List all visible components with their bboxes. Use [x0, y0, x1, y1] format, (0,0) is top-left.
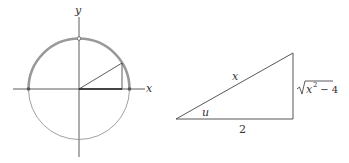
right-endpoint — [128, 87, 132, 91]
radicand-rest: − 4 — [317, 84, 338, 95]
radius-line — [79, 63, 122, 89]
right-triangle-figure: x u 2 x 2 − 4 — [176, 53, 338, 136]
opposite-side-label: x 2 − 4 — [297, 81, 338, 96]
left-endpoint — [27, 87, 31, 91]
x-axis-label: x — [146, 82, 153, 95]
unit-circle-figure: x y — [13, 4, 153, 157]
hypotenuse-label: x — [232, 70, 239, 83]
y-axis-label: y — [74, 4, 82, 17]
radicand-x: x — [306, 83, 313, 96]
base-label: 2 — [239, 123, 246, 136]
top-open-point — [77, 37, 81, 41]
diagram-canvas: x y x u 2 x 2 − 4 — [0, 0, 349, 163]
triangle — [176, 53, 293, 119]
angle-label: u — [202, 106, 209, 119]
